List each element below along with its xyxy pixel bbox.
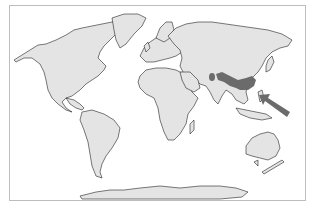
central-america [66,98,84,110]
new-zealand [262,160,284,174]
southeast-asia-islands [236,108,272,120]
madagascar [190,120,194,134]
south-america [80,110,120,178]
greenland [112,14,146,48]
tasmania [254,160,258,166]
highlighted-region-tibet [209,73,215,81]
north-america [14,22,130,112]
antarctica [80,186,248,199]
world-map [0,0,311,207]
japan [266,56,274,72]
australia [246,132,280,160]
